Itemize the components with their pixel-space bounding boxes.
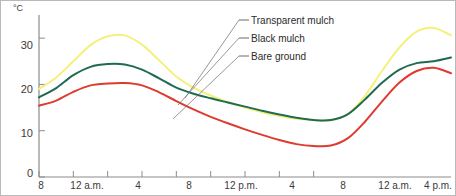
x-tick-label-2: 4	[135, 180, 141, 191]
legend-label-bare-ground: Bare ground	[251, 51, 306, 62]
x-tick-label-7: 12 a.m.	[378, 180, 411, 191]
x-tick-label-0: 8	[38, 180, 44, 191]
chart-figure: °C 30 20 10 0 8 12 a.m. 4 8 12 p.m. 4 8 …	[0, 0, 456, 196]
legend-leader-line-0	[185, 20, 239, 98]
legend-label-black-mulch: Black mulch	[251, 33, 305, 44]
x-tick-label-8: 4 p.m.	[424, 180, 452, 191]
x-tick-marks	[39, 171, 314, 177]
legend-label-transparent-mulch: Transparent mulch	[251, 15, 334, 26]
x-tick-label-4: 12 p.m.	[224, 180, 257, 191]
x-tick-label-1: 12 a.m.	[70, 180, 103, 191]
x-tick-label-6: 8	[340, 180, 346, 191]
plot-area	[1, 1, 456, 196]
y-tick-marks	[39, 38, 45, 177]
legend-leader-line-2	[173, 56, 239, 119]
series-lines	[39, 28, 451, 147]
x-tick-label-5: 4	[289, 180, 295, 191]
x-tick-label-3: 8	[186, 180, 192, 191]
series-line-1	[39, 58, 451, 121]
